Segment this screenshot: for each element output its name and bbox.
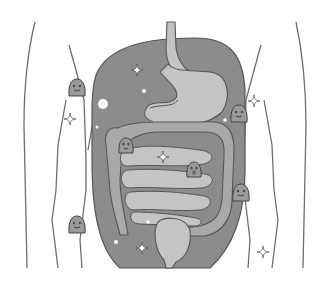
bacteria-character (187, 162, 201, 177)
bacteria-character (231, 105, 247, 122)
bacteria-character (69, 216, 85, 233)
bacteria-character (233, 184, 249, 201)
digestive-illustration (0, 0, 330, 284)
bacteria-character (69, 79, 85, 96)
bacteria-character (119, 138, 133, 153)
